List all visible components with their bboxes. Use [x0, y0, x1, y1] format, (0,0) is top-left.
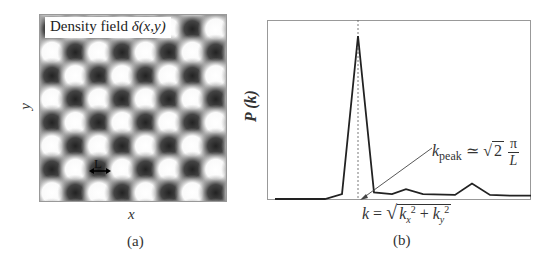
sqrt-icon: √ [483, 142, 492, 159]
power-spectrum-chart [0, 0, 552, 266]
k-magnitude-x-label: k = √kx2 + ky2 [362, 201, 451, 225]
approx-symbol: ≃ [466, 142, 479, 159]
k-peak-annotation: kpeak ≃ √2 π L [432, 137, 519, 168]
peak-subscript: peak [439, 149, 462, 163]
pi-over-l-fraction: π L [508, 137, 519, 168]
panel-b-caption: (b) [393, 232, 411, 249]
annotation-arrow-line [363, 148, 432, 198]
power-spectrum-y-label: P (k) [242, 90, 260, 122]
fraction-numerator: π [508, 137, 519, 153]
equals-sign: = [373, 205, 382, 222]
sqrt-icon: √ [386, 201, 397, 223]
sqrt-argument: 2 [492, 141, 504, 159]
k-symbol: k [362, 205, 369, 222]
plot-frame [268, 21, 531, 200]
fraction-denominator: L [508, 153, 519, 168]
sqrt-argument: kx2 + ky2 [397, 204, 451, 222]
power-spectrum-line [275, 36, 531, 199]
